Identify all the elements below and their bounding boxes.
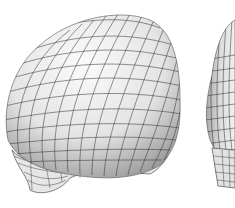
mesh-render-scene bbox=[0, 0, 235, 208]
right-model bbox=[205, 20, 235, 188]
mesh-render-figure bbox=[0, 0, 235, 208]
left-model-head bbox=[4, 14, 182, 178]
